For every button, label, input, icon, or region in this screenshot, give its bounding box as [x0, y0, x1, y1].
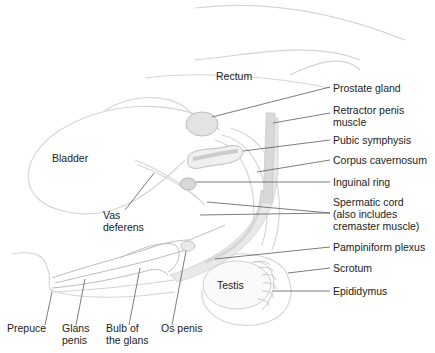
label-bulb-2: the glans — [106, 334, 149, 346]
leader-os — [172, 251, 186, 325]
leader-vas — [125, 173, 154, 210]
anatomy-diagram: Rectum Bladder Testis Vas deferens Prost… — [0, 0, 435, 353]
leader-prepuce — [45, 292, 52, 325]
label-bulb-1: Bulb of — [106, 322, 139, 334]
label-os-penis: Os penis — [161, 322, 202, 334]
label-scrotum: Scrotum — [333, 262, 372, 274]
leader-prostate — [212, 87, 330, 117]
label-pampiniform-plexus: Pampiniform plexus — [333, 241, 425, 253]
inguinal-ring-shape — [180, 178, 196, 190]
leader-glans — [76, 279, 85, 325]
label-glans-penis-2: penis — [62, 334, 87, 346]
prepuce-outline — [12, 253, 175, 292]
label-testis: Testis — [217, 279, 244, 291]
label-glans-penis-1: Glans — [62, 322, 89, 334]
label-vas-deferens-1: Vas — [103, 209, 120, 221]
label-spermatic-cord-2: (also includes — [333, 208, 397, 220]
label-epididymus: Epididymus — [333, 285, 387, 297]
rectum-outline — [195, 5, 405, 40]
label-rectum: Rectum — [216, 70, 252, 82]
prostate-gland-shape — [186, 112, 218, 136]
pelvic-outline — [290, 61, 360, 75]
bladder-neck — [105, 98, 195, 118]
label-spermatic-cord-3: cremaster muscle) — [333, 220, 419, 232]
label-inguinal-ring: Inguinal ring — [333, 176, 390, 188]
label-corpus-cavernosum: Corpus cavernosum — [333, 154, 427, 166]
label-pubic-symphysis: Pubic symphysis — [333, 134, 411, 146]
leader-scrotum — [288, 268, 330, 273]
label-retractor-penis-2: muscle — [333, 116, 366, 128]
label-bladder: Bladder — [52, 152, 88, 164]
label-spermatic-cord-1: Spermatic cord — [333, 196, 404, 208]
rectum-outline-inner — [195, 50, 360, 60]
label-prepuce: Prepuce — [7, 322, 46, 334]
label-retractor-penis-1: Retractor penis — [333, 104, 404, 116]
os-penis-shape — [181, 241, 195, 251]
label-vas-deferens-2: deferens — [103, 221, 144, 233]
leader-retractor — [273, 113, 330, 123]
label-prostate-gland: Prostate gland — [333, 82, 401, 94]
